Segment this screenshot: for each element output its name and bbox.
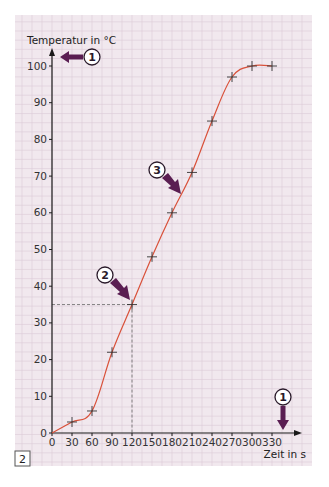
y-tick-label: 0 (40, 427, 47, 439)
y-tick-label: 20 (34, 353, 47, 365)
y-tick-label: 30 (34, 316, 47, 328)
y-tick-label: 100 (27, 60, 47, 72)
x-tick-label: 60 (85, 436, 98, 448)
y-axis-label: Temperatur in °C (26, 34, 116, 46)
callout-1-top-number: 1 (88, 51, 96, 64)
callout-3-number: 3 (153, 164, 161, 177)
y-tick-label: 80 (34, 133, 47, 145)
chart: 0306090120150180210240270300330 01020304… (0, 0, 329, 487)
figure-label: 2 (15, 451, 30, 466)
callout-2-number: 2 (101, 269, 109, 282)
x-tick-label: 330 (262, 436, 282, 448)
x-tick-label: 30 (65, 436, 78, 448)
y-tick-label: 70 (34, 170, 47, 182)
chart-panel (15, 15, 312, 466)
x-axis-label: Zeit in s (264, 448, 306, 460)
x-tick-label: 210 (182, 436, 202, 448)
figure-label-text: 2 (19, 453, 26, 466)
x-tick-label: 300 (242, 436, 262, 448)
x-tick-label: 240 (202, 436, 222, 448)
x-tick-label: 0 (49, 436, 56, 448)
x-tick-label: 90 (105, 436, 118, 448)
y-tick-label: 90 (34, 96, 47, 108)
x-tick-label: 270 (222, 436, 242, 448)
y-tick-label: 60 (34, 206, 47, 218)
y-tick-label: 10 (34, 390, 47, 402)
y-tick-label: 50 (34, 243, 47, 255)
y-tick-label: 40 (34, 280, 47, 292)
callout-1-bottom-number: 1 (279, 391, 287, 404)
x-tick-label: 120 (122, 436, 142, 448)
x-tick-label: 180 (162, 436, 182, 448)
x-tick-label: 150 (142, 436, 162, 448)
